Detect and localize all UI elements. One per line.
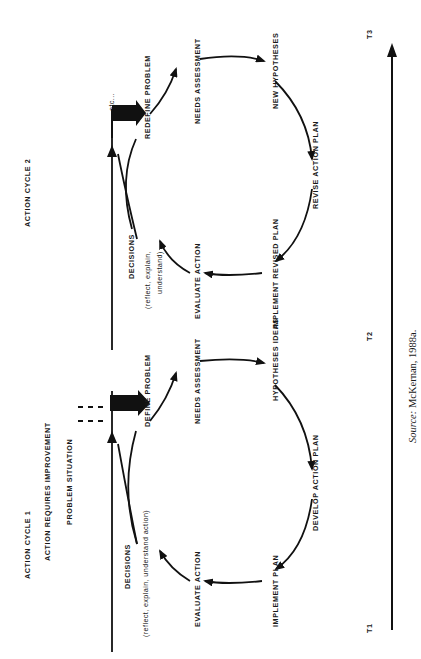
time-axis: T1 T2 T3 xyxy=(365,29,397,633)
source-caption: Source: McKernan, 1988a. xyxy=(407,330,418,443)
cycle2-decisions-note-1: (reflect, explain, xyxy=(143,251,152,309)
time-label-t1: T1 xyxy=(365,623,374,633)
cycle1-develop-plan: DEVELOP ACTION PLAN xyxy=(311,435,320,531)
cycle2-decisions-note-2: understand) xyxy=(155,251,164,294)
source-text: McKernan, 1988a. xyxy=(407,330,418,411)
cycle2-new-hypotheses: NEW HYPOTHESES xyxy=(271,33,280,109)
cycle1-needs-assessment: NEEDS ASSESSMENT xyxy=(193,338,202,424)
problem-situation-connector xyxy=(78,407,108,421)
cycle1-evaluate-action: EVALUATE ACTION xyxy=(193,551,202,627)
cycle2-revise-plan: REVISE ACTION PLAN xyxy=(311,121,320,209)
cycle1-implement-plan: IMPLEMENT PLAN xyxy=(271,555,280,627)
cycle1-decisions-note: (reflect, explain, understand action) xyxy=(141,510,150,637)
cycle2-implement-revised-plan: IMPLEMENT REVISED PLAN xyxy=(271,218,280,329)
cycle2-needs-assessment: NEEDS ASSESSMENT xyxy=(193,38,202,124)
time-label-t3: T3 xyxy=(365,29,374,39)
problem-situation-label: PROBLEM SITUATION xyxy=(65,439,74,525)
action-research-diagram: ACTION CYCLE 1 ACTION REQUIRES IMPROVEME… xyxy=(0,0,421,659)
time-arrowhead-icon xyxy=(387,43,397,57)
action-cycle-2: REDEFINE PROBLEM NEEDS ASSESSMENT NEW HY… xyxy=(118,33,320,329)
define-block-arrow-2 xyxy=(112,100,146,126)
action-cycle-1: DEFINE PROBLEM NEEDS ASSESSMENT HYPOTHES… xyxy=(118,318,320,637)
cycle1-subtitle: ACTION REQUIRES IMPROVEMENT xyxy=(43,422,52,561)
cycle2-title: ACTION CYCLE 2 xyxy=(23,159,32,227)
cycle1-decisions: DECISIONS xyxy=(123,544,132,589)
cycle1-hypotheses: HYPOTHESES IDEAS xyxy=(271,318,280,401)
cycle1-title: ACTION CYCLE 1 xyxy=(23,511,32,579)
source-prefix: Source: xyxy=(407,411,418,443)
cycle2-evaluate-action: EVALUATE ACTION xyxy=(193,243,202,319)
cycle1-define-problem: DEFINE PROBLEM xyxy=(143,354,152,427)
cycle2-decisions: DECISIONS xyxy=(127,234,136,279)
cycle2-redefine-problem: REDEFINE PROBLEM xyxy=(143,55,152,139)
time-label-t2: T2 xyxy=(365,331,374,341)
